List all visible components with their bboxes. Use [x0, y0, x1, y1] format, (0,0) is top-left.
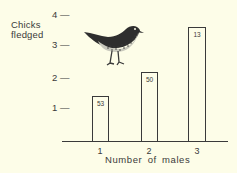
y-axis-label: Chicks fledged — [11, 20, 44, 40]
y-tick-1: 1 — — [52, 103, 72, 113]
x-axis-line — [62, 141, 228, 142]
bar-3-sample-size: 13 — [189, 31, 205, 38]
y-axis-label-line2: fledged — [11, 30, 44, 40]
sandpiper-bird-icon — [82, 24, 144, 70]
y-tick-2: 2 — — [52, 73, 72, 83]
y-tick-3: 3 — — [52, 40, 72, 50]
y-tick-4: 4 — — [52, 10, 72, 20]
bar-1-male: 53 — [92, 96, 109, 141]
bar-2-males: 50 — [141, 72, 158, 141]
x-axis-label: Number of males — [105, 155, 190, 165]
bar-chart: Chicks fledged 4 — 3 — 2 — 1 — 53 50 13 … — [0, 0, 237, 173]
bar-2-sample-size: 50 — [142, 76, 157, 83]
bar-3-males: 13 — [188, 27, 206, 141]
bar-1-sample-size: 53 — [93, 100, 108, 107]
